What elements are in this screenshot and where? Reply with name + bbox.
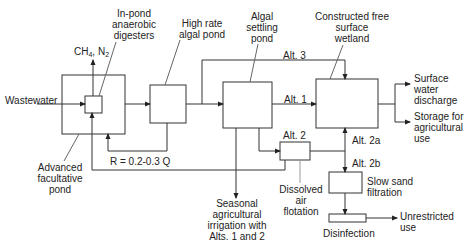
label-line: digesters <box>112 30 156 41</box>
settling-to-daf-arrow <box>259 128 280 151</box>
label-line: wetland <box>312 33 392 44</box>
label-line: discharge <box>414 95 457 106</box>
label-line: Storage for <box>414 111 463 122</box>
label-line: agricultural <box>414 122 463 133</box>
wetland-leader <box>330 45 343 79</box>
label-line: facultative <box>30 173 90 184</box>
label-line: Alts. 1 and 2 <box>204 231 270 242</box>
label-line: Algal <box>242 11 282 22</box>
surface-water-discharge-label: Surface water discharge <box>414 73 457 106</box>
label-line: water <box>414 84 457 95</box>
label-line: anaerobic <box>112 19 156 30</box>
high-rate-algal-pond-box <box>150 85 186 123</box>
alt3-label: Alt. 3 <box>283 50 306 61</box>
dissolved-air-flotation-label: Dissolved air flotation <box>276 184 326 217</box>
label-line: Constructed free <box>312 11 392 22</box>
recycle-line <box>108 123 167 151</box>
gas-sub2: 2 <box>105 51 109 58</box>
label-line: Dissolved <box>276 184 326 195</box>
gas-mid: , N <box>92 46 105 57</box>
label-line: surface <box>312 22 392 33</box>
advanced-facultative-pond-label: Advanced facultative pond <box>30 162 90 195</box>
alt2-label: Alt. 2 <box>283 130 306 141</box>
label-line: High rate <box>172 18 232 29</box>
label-line: use <box>400 222 454 233</box>
surface-discharge-arrow <box>395 84 410 104</box>
label-line: pond <box>30 184 90 195</box>
label-line: Slow sand <box>367 176 413 187</box>
constructed-wetland-box <box>316 79 378 128</box>
label-line: In-pond <box>112 8 156 19</box>
slow-sand-filtration-label: Slow sand filtration <box>367 176 413 198</box>
seasonal-irrigation-label: Seasonal agricultural irrigation with Al… <box>204 198 270 242</box>
gas-ch: CH <box>74 46 88 57</box>
algal-settling-pond-box <box>223 82 272 128</box>
hrap-leader <box>165 40 180 85</box>
dissolved-air-flotation-box <box>280 142 310 160</box>
in-pond-digesters-label: In-pond anaerobic digesters <box>112 8 156 41</box>
label-line: irrigation with <box>204 220 270 231</box>
label-line: air <box>276 195 326 206</box>
slow-sand-filtration-box <box>329 172 362 193</box>
label-line: Seasonal <box>204 198 270 209</box>
label-line: Surface <box>414 73 457 84</box>
alt2a-label: Alt. 2a <box>352 135 380 146</box>
storage-arrow <box>395 104 410 122</box>
label-line: Unrestricted <box>400 211 454 222</box>
storage-agricultural-label: Storage for agricultural use <box>414 111 463 144</box>
settling-leader <box>250 44 258 82</box>
high-rate-algal-pond-label: High rate algal pond <box>172 18 232 40</box>
algal-settling-pond-label: Algal settling pond <box>242 11 282 44</box>
disinfection-box <box>329 214 366 222</box>
advanced-pond-leader <box>64 134 79 161</box>
wastewater-label: Wastewater <box>5 95 57 106</box>
label-line: pond <box>242 33 282 44</box>
label-line: settling <box>242 22 282 33</box>
label-line: use <box>414 133 463 144</box>
alt2b-label: Alt. 2b <box>352 158 380 169</box>
disinfection-label: Disinfection <box>323 228 375 239</box>
alt1-label: Alt. 1 <box>284 94 307 105</box>
in-pond-digester-box <box>85 96 102 113</box>
label-line: agricultural <box>204 209 270 220</box>
unrestricted-use-label: Unrestricted use <box>400 211 454 233</box>
constructed-wetland-label: Constructed free surface wetland <box>312 11 392 44</box>
label-line: filtration <box>367 187 413 198</box>
label-line: Advanced <box>30 162 90 173</box>
recycle-label: R = 0.2-0.3 Q <box>110 156 170 167</box>
label-line: algal pond <box>172 29 232 40</box>
gas-output-label: CH4, N2 <box>74 46 109 60</box>
label-line: flotation <box>276 206 326 217</box>
